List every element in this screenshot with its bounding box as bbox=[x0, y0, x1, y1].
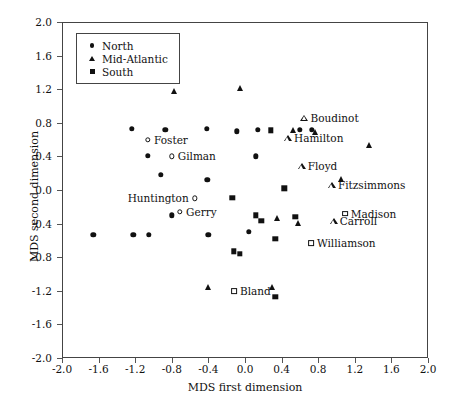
data-point-label: Floyd bbox=[308, 160, 338, 172]
data-point-triangle-open bbox=[328, 182, 336, 188]
y-axis-title: MDS second dimension bbox=[28, 97, 41, 297]
y-tick-label: -2.0 bbox=[32, 352, 52, 364]
data-point-square bbox=[259, 218, 264, 223]
data-point-label: Gilman bbox=[178, 150, 216, 162]
x-axis-title: MDS first dimension bbox=[62, 381, 428, 394]
legend: North Mid-Atlantic South bbox=[76, 33, 180, 84]
data-point-square bbox=[268, 128, 273, 133]
x-tick-label: 1.6 bbox=[383, 363, 400, 375]
x-tick-label: 2.0 bbox=[420, 363, 437, 375]
data-point-label: Madison bbox=[351, 208, 397, 220]
x-tick-label: -0.8 bbox=[162, 363, 182, 375]
y-tick bbox=[57, 190, 62, 191]
x-tick-label: -1.6 bbox=[88, 363, 108, 375]
y-tick bbox=[57, 22, 62, 23]
data-point-square bbox=[282, 186, 287, 191]
data-point-triangle bbox=[171, 88, 177, 94]
data-point-triangle bbox=[274, 215, 280, 221]
data-point-triangle bbox=[205, 284, 211, 290]
data-point-square bbox=[229, 195, 234, 200]
square-marker-icon bbox=[85, 69, 99, 74]
y-tick bbox=[57, 89, 62, 90]
data-point-square bbox=[293, 214, 298, 219]
legend-label: South bbox=[102, 66, 133, 78]
y-tick-label: 1.6 bbox=[35, 50, 52, 62]
x-tick-label: -0.4 bbox=[198, 363, 218, 375]
legend-item-mid-atlantic: Mid-Atlantic bbox=[85, 52, 168, 65]
legend-label: North bbox=[102, 40, 134, 52]
x-tick-label: 1.2 bbox=[346, 363, 363, 375]
y-tick bbox=[57, 291, 62, 292]
data-point-triangle bbox=[295, 220, 301, 226]
data-point-label: Foster bbox=[154, 134, 188, 146]
data-point-triangle-open bbox=[330, 218, 338, 224]
data-point-label: Fitzsimmons bbox=[338, 179, 406, 191]
data-point-triangle-open bbox=[284, 135, 292, 141]
data-point-label: Gerry bbox=[186, 206, 217, 218]
data-point-square bbox=[272, 294, 277, 299]
x-tick-label: -2.0 bbox=[52, 363, 72, 375]
y-tick bbox=[57, 257, 62, 258]
y-tick-label: 2.0 bbox=[35, 16, 52, 28]
y-tick bbox=[57, 156, 62, 157]
y-tick-label: -1.6 bbox=[32, 318, 52, 330]
data-point-square-open bbox=[231, 288, 237, 294]
x-tick-label: 0.4 bbox=[273, 363, 290, 375]
data-point-label: Williamson bbox=[317, 237, 376, 249]
data-point-label: Hamilton bbox=[294, 132, 343, 144]
y-tick bbox=[57, 224, 62, 225]
y-tick-label: 1.2 bbox=[35, 83, 52, 95]
x-tick-label: 0.8 bbox=[310, 363, 327, 375]
data-point-square-open bbox=[308, 240, 314, 246]
y-tick bbox=[57, 324, 62, 325]
y-tick bbox=[57, 123, 62, 124]
triangle-marker-icon bbox=[85, 56, 99, 61]
legend-item-north: North bbox=[85, 39, 168, 52]
legend-label: Mid-Atlantic bbox=[102, 53, 168, 65]
data-point-square bbox=[237, 251, 242, 256]
legend-item-south: South bbox=[85, 65, 168, 78]
scatter-plot: -2.0-1.6-1.2-0.8-0.40.00.40.81.21.62.02.… bbox=[0, 0, 450, 412]
x-tick-label: -1.2 bbox=[125, 363, 145, 375]
y-tick bbox=[57, 56, 62, 57]
y-tick bbox=[57, 358, 62, 359]
data-point-triangle-open bbox=[298, 163, 306, 169]
data-point-label: Bland bbox=[240, 285, 271, 297]
data-point-square bbox=[272, 236, 277, 241]
data-point-label: Huntington bbox=[128, 192, 189, 204]
x-tick-label: 0.0 bbox=[237, 363, 254, 375]
data-point-triangle bbox=[237, 85, 243, 91]
data-point-square-open bbox=[342, 211, 348, 217]
data-point-label: Boudinot bbox=[310, 112, 358, 124]
data-point-triangle-open bbox=[300, 115, 308, 121]
data-point-triangle bbox=[366, 142, 372, 148]
data-point-square bbox=[253, 212, 258, 217]
circle-marker-icon bbox=[85, 43, 99, 48]
